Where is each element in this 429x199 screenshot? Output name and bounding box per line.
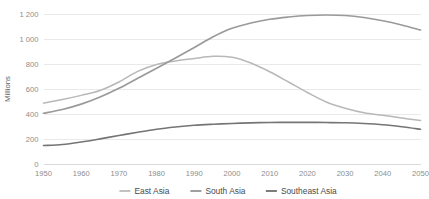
legend: East AsiaSouth AsiaSoutheast Asia [119, 186, 337, 196]
x-tick-label: 1960 [73, 169, 90, 178]
x-tick-label: 2020 [299, 169, 316, 178]
series-line-southeast-asia [44, 122, 421, 145]
x-tick-label: 2010 [261, 169, 278, 178]
x-axis-tick-labels: 1950196019701980199020002010202020302040… [35, 169, 429, 178]
x-tick-label: 2050 [412, 169, 429, 178]
x-tick-label: 2000 [224, 169, 241, 178]
legend-label: Southeast Asia [281, 186, 337, 196]
y-tick-label: 0 [34, 160, 38, 169]
legend-item-southeast-asia[interactable]: Southeast Asia [266, 186, 337, 196]
y-tick-label: 1 200 [19, 10, 38, 19]
gridlines-group [44, 15, 421, 165]
x-tick-label: 1990 [186, 169, 203, 178]
y-tick-label: 200 [26, 135, 39, 144]
y-axis-title-group: Millions [3, 76, 12, 102]
legend-item-east-asia[interactable]: East Asia [119, 186, 169, 196]
x-tick-label: 1950 [35, 169, 52, 178]
series-group [44, 15, 421, 146]
x-tick-label: 1970 [110, 169, 127, 178]
y-tick-label: 600 [26, 85, 39, 94]
x-tick-label: 1980 [148, 169, 165, 178]
legend-label: South Asia [205, 186, 245, 196]
x-tick-label: 2040 [374, 169, 391, 178]
y-axis-title: Millions [3, 76, 12, 102]
y-axis-tick-labels: 02004006008001 0001 200 [19, 10, 38, 169]
y-tick-label: 1 000 [19, 35, 38, 44]
x-tick-label: 2030 [337, 169, 354, 178]
legend-label: East Asia [134, 186, 169, 196]
y-tick-label: 400 [26, 110, 39, 119]
legend-item-south-asia[interactable]: South Asia [190, 186, 245, 196]
series-line-east-asia [44, 56, 421, 120]
line-chart: 02004006008001 0001 200 1950196019701980… [0, 0, 429, 199]
chart-canvas: 02004006008001 0001 200 1950196019701980… [0, 0, 429, 199]
y-tick-label: 800 [26, 60, 39, 69]
